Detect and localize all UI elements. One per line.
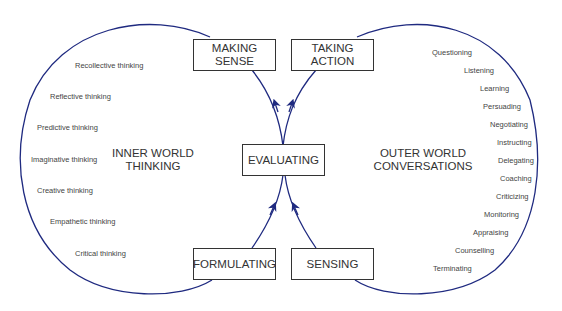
outer-item: Negotiating <box>490 120 528 129</box>
outer-item: Criticizing <box>496 192 529 201</box>
inner-item: Critical thinking <box>75 249 126 258</box>
outer-item: Counselling <box>455 246 494 255</box>
outer-item: Listening <box>464 66 494 75</box>
making-sense-box: MAKING SENSE <box>193 39 276 71</box>
inner-item: Reflective thinking <box>50 92 111 101</box>
arrow-from-formulating <box>252 175 283 248</box>
arrow-to-making-sense <box>252 70 283 146</box>
outer-item: Persuading <box>483 102 521 111</box>
inner-item: Predictive thinking <box>37 123 98 132</box>
formulating-box: FORMULATING <box>193 248 276 280</box>
outer-item: Monitoring <box>484 210 519 219</box>
inner-item: Recollective thinking <box>75 61 143 70</box>
outer-item: Questioning <box>432 48 472 57</box>
inner-item: Imaginative thinking <box>31 155 97 164</box>
taking-action-box: TAKING ACTION <box>291 39 374 71</box>
inner-item: Creative thinking <box>37 186 93 195</box>
outer-item: Coaching <box>500 174 532 183</box>
inner-world-label: INNER WORLD THINKING <box>108 147 198 173</box>
outer-item: Terminating <box>433 264 472 273</box>
inner-item: Empathetic thinking <box>50 217 115 226</box>
evaluating-box: EVALUATING <box>242 144 325 176</box>
outer-item: Appraising <box>473 228 508 237</box>
sensing-box: SENSING <box>291 248 374 280</box>
outer-item: Delegating <box>498 156 534 165</box>
outer-item: Learning <box>480 84 509 93</box>
arrow-from-sensing <box>285 175 316 248</box>
outer-item: Instructing <box>497 138 532 147</box>
outer-world-label: OUTER WORLD CONVERSATIONS <box>363 147 483 173</box>
arrow-to-taking-action <box>283 70 316 146</box>
